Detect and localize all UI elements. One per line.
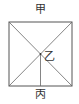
- center-point: [40, 53, 42, 55]
- label-bottom: 丙: [35, 89, 46, 100]
- label-center: 乙: [44, 51, 55, 62]
- label-top: 甲: [35, 4, 46, 15]
